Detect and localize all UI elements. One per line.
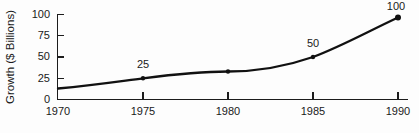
y-tick-label-0: 0 [44,93,50,105]
growth-line-chart: Growth ($ Billions) 100 75 50 25 0 1970 … [0,0,419,133]
data-point-1985 [311,55,315,59]
x-tick-label-1990: 1990 [386,105,410,117]
x-tick-label-1970: 1970 [46,105,70,117]
y-axis-title: Growth ($ Billions) [4,10,16,104]
y-tick-label-75: 75 [38,29,50,41]
data-point-1975 [141,76,145,80]
y-tick-label-50: 50 [38,50,50,62]
x-tick-label-1980: 1980 [216,105,240,117]
x-tick-label-1985: 1985 [301,105,325,117]
growth-curve [58,18,398,89]
data-label-1975: 25 [137,58,149,70]
y-tick-label-100: 100 [32,8,50,20]
chart-axes [58,14,409,100]
chart-container: Growth ($ Billions) 100 75 50 25 0 1970 … [0,0,419,133]
data-label-1985: 50 [307,37,319,49]
data-point-1990 [395,15,401,21]
data-point-1980 [226,69,230,73]
data-label-1990: 100 [387,0,405,12]
x-tick-label-1975: 1975 [131,105,155,117]
y-tick-label-25: 25 [38,72,50,84]
